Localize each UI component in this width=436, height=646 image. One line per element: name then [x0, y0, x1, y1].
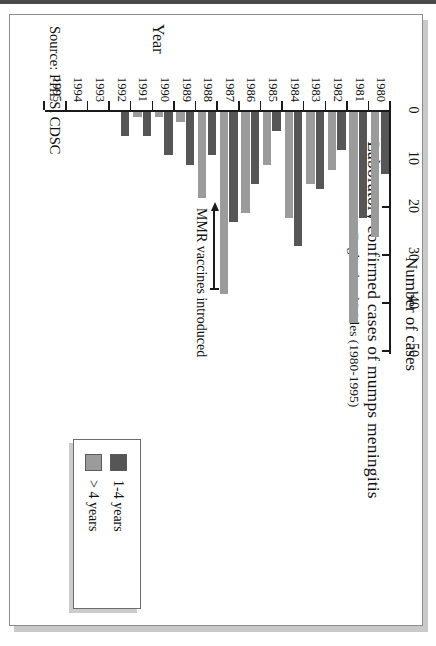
- y-tick-label: 1981: [352, 58, 367, 102]
- y-tick: [325, 101, 327, 110]
- x-tick-label: 10: [405, 141, 421, 175]
- y-tick: [152, 101, 154, 110]
- y-tick-label: 1993: [92, 58, 107, 102]
- bar: [208, 112, 216, 155]
- x-axis-line: [389, 110, 391, 354]
- y-tick: [346, 101, 348, 110]
- bar: [229, 112, 237, 222]
- y-tick: [173, 101, 175, 110]
- bar: [186, 112, 194, 165]
- y-tick-label: 1984: [287, 58, 302, 102]
- annotation-label: MMR vaccines introduced: [193, 208, 209, 357]
- legend-label: 1-4 years: [111, 480, 127, 532]
- bar: [241, 112, 249, 213]
- y-tick-label: 1985: [265, 58, 280, 102]
- x-tick: [382, 206, 391, 208]
- y-tick-label: 1980: [373, 58, 388, 102]
- x-tick: [382, 254, 391, 256]
- y-tick: [87, 101, 89, 110]
- bar: [121, 112, 129, 136]
- y-tick-label: 1986: [243, 58, 258, 102]
- bar: [294, 112, 302, 246]
- y-tick-label: 1994: [70, 58, 85, 102]
- legend-swatch: [110, 454, 127, 471]
- y-tick: [281, 101, 283, 110]
- bar: [381, 112, 389, 174]
- x-tick: [382, 350, 391, 352]
- bar: [328, 112, 336, 170]
- bar: [164, 112, 172, 155]
- x-tick-label: 0: [405, 93, 421, 127]
- annotation-leader-line: [213, 210, 215, 288]
- y-tick: [216, 101, 218, 110]
- plot-area: 01020304050 1980198119821983198419851986…: [45, 110, 391, 410]
- bar: [272, 112, 280, 131]
- y-tick: [130, 101, 132, 110]
- bar: [143, 112, 151, 136]
- y-tick: [389, 101, 391, 110]
- bar: [371, 112, 379, 237]
- legend-item: > 4 years: [85, 454, 102, 531]
- y-tick: [65, 101, 67, 110]
- x-tick-label: 50: [405, 333, 421, 367]
- x-tick: [382, 302, 391, 304]
- bar: [316, 112, 324, 189]
- y-tick: [303, 101, 305, 110]
- figure-rotated-container: Laboratory confirmed cases of mumps meni…: [9, 14, 423, 626]
- bar: [263, 112, 271, 165]
- bar: [220, 112, 228, 294]
- y-axis-title: Year: [149, 24, 167, 53]
- bar: [251, 112, 259, 184]
- y-tick: [260, 101, 262, 110]
- y-tick-label: 1982: [330, 58, 345, 102]
- bar: [306, 112, 314, 184]
- y-tick-label: 1989: [179, 58, 194, 102]
- y-tick-label: 1987: [222, 58, 237, 102]
- y-tick: [238, 101, 240, 110]
- y-tick-label: 1983: [308, 58, 323, 102]
- legend-label: > 4 years: [86, 480, 102, 531]
- y-tick: [108, 101, 110, 110]
- legend-item: 1-4 years: [110, 454, 127, 532]
- bar: [349, 112, 357, 323]
- x-tick-label: 30: [405, 237, 421, 271]
- bar: [359, 112, 367, 218]
- y-tick-label: 1990: [157, 58, 172, 102]
- bar: [176, 112, 184, 122]
- bar: [285, 112, 293, 218]
- y-tick-label: 1992: [114, 58, 129, 102]
- x-tick-label: 20: [405, 189, 421, 223]
- x-tick-label: 40: [405, 285, 421, 319]
- legend-box: 1-4 years> 4 years: [73, 439, 141, 609]
- y-tick: [195, 101, 197, 110]
- bar: [337, 112, 345, 150]
- annotation-arrow-icon: [211, 202, 219, 211]
- page-root: Laboratory confirmed cases of mumps meni…: [0, 0, 436, 646]
- annotation-tick: [210, 288, 219, 290]
- page-top-strip: [0, 0, 436, 4]
- bar: [198, 112, 206, 198]
- y-tick: [368, 101, 370, 110]
- y-tick: [43, 101, 45, 110]
- y-tick-label: 1991: [135, 58, 150, 102]
- y-tick-label: 1995: [49, 58, 64, 102]
- bar: [133, 112, 141, 117]
- y-tick-label: 1988: [200, 58, 215, 102]
- legend-swatch: [85, 454, 102, 471]
- bar: [155, 112, 163, 117]
